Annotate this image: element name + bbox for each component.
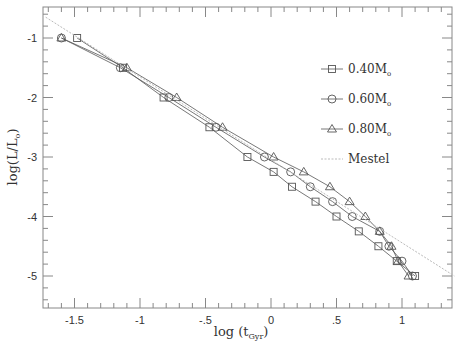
y-tick-label: -4 <box>27 211 37 223</box>
y-axis-title: log(L/Lo) <box>5 129 22 186</box>
x-tick-label: .5 <box>332 314 341 326</box>
series-layer <box>46 17 455 280</box>
legend-item: 0.40Mo <box>321 62 391 78</box>
legend-label: 0.80Mo <box>348 122 391 138</box>
x-tick-label: -.5 <box>199 314 212 326</box>
x-axis-title-sub: Gyr <box>248 332 263 341</box>
y-tick-label: -5 <box>27 270 37 282</box>
x-tick-label: 1 <box>399 314 405 326</box>
legend-item: 0.60Mo <box>321 92 391 108</box>
triangle-marker <box>325 182 334 190</box>
y-tick-label: -1 <box>27 32 37 44</box>
legend-item: 0.80Mo <box>321 122 391 138</box>
x-axis-title: log (tGyr) <box>214 324 269 341</box>
series-mestel <box>46 17 455 276</box>
triangle-marker <box>328 125 337 133</box>
legend-item: Mestel <box>321 152 389 166</box>
luminosity-age-chart: -1.5-1-.50.51 -1-2-3-4-5 0.40Mo0.60Mo0.8… <box>0 0 456 345</box>
y-tick-labels: -1-2-3-4-5 <box>27 32 37 282</box>
y-tick-label: -2 <box>27 92 37 104</box>
x-tick-label: -1.5 <box>65 314 84 326</box>
triangle-marker <box>345 197 354 205</box>
legend-label: 0.40Mo <box>348 62 391 78</box>
legend-label: Mestel <box>348 152 389 166</box>
x-tick-label: 0 <box>268 314 274 326</box>
y-tick-label: -3 <box>27 151 37 163</box>
legend-label: 0.60Mo <box>348 92 391 108</box>
x-tick-label: -1 <box>135 314 145 326</box>
legend: 0.40Mo0.60Mo0.80MoMestel <box>321 62 391 166</box>
